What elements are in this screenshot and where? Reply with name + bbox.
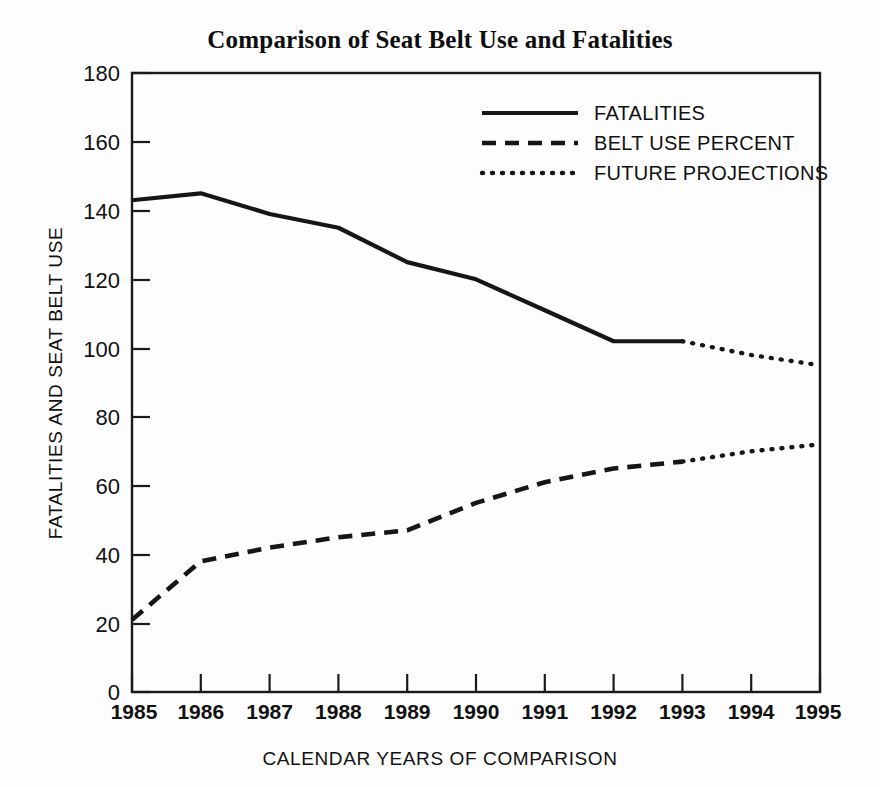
x-tick-label: 1988: [315, 700, 362, 723]
y-tick-label: 140: [83, 199, 120, 224]
y-tick-label: 20: [96, 612, 120, 637]
x-tick-label: 1992: [590, 700, 637, 723]
x-tick-label: 1995: [795, 700, 842, 723]
legend-label-future-projections: FUTURE PROJECTIONS: [594, 162, 828, 184]
y-tick-label: 180: [83, 61, 120, 86]
y-tick-label: 80: [96, 405, 120, 430]
chart-page: Comparison of Seat Belt Use and Fataliti…: [0, 0, 880, 787]
series-line-future-projections-belt-use: [682, 444, 820, 461]
y-axis-ticks: [132, 73, 150, 692]
legend-label-fatalities: FATALITIES: [594, 102, 705, 124]
x-axis-title: CALENDAR YEARS OF COMPARISON: [263, 748, 618, 769]
legend: FATALITIES BELT USE PERCENT FUTURE PROJE…: [482, 102, 828, 184]
x-tick-label: 1990: [453, 700, 500, 723]
y-tick-label: 120: [83, 268, 120, 293]
x-tick-label: 1989: [384, 700, 431, 723]
series-group: [132, 193, 820, 619]
y-axis-tick-labels: 180 160 140 120 100 80 60 40 20 0: [83, 61, 120, 705]
x-axis-ticks: [132, 674, 820, 692]
x-tick-label: 1994: [728, 700, 775, 723]
x-tick-label: 1987: [246, 700, 293, 723]
x-tick-label: 1991: [521, 700, 568, 723]
line-chart: 180 160 140 120 100 80 60 40 20 0: [0, 0, 880, 787]
y-tick-label: 160: [83, 130, 120, 155]
x-tick-label: 1985: [111, 700, 158, 723]
legend-label-belt-use-percent: BELT USE PERCENT: [594, 132, 795, 154]
x-axis-tick-labels: 1985 1986 1987 1988 1989 1990 1991 1992 …: [111, 700, 842, 723]
x-tick-label: 1986: [177, 700, 224, 723]
y-tick-label: 100: [83, 337, 120, 362]
series-line-future-projections-fatalities: [682, 341, 820, 365]
series-line-belt-use-percent: [132, 462, 682, 620]
y-tick-label: 40: [96, 543, 120, 568]
series-line-fatalities: [132, 193, 682, 341]
y-axis-title: FATALITIES AND SEAT BELT USE: [45, 227, 66, 539]
x-tick-label: 1993: [659, 700, 706, 723]
y-tick-label: 60: [96, 474, 120, 499]
